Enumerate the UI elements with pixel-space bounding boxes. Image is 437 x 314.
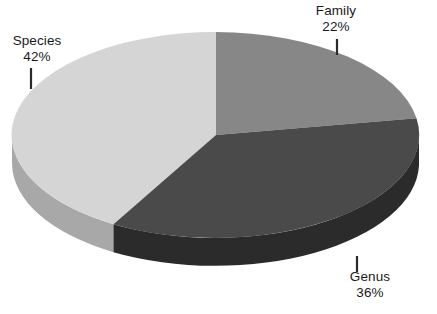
pie-chart-figure: Family 22% Species 42% Genus 36%	[0, 0, 437, 314]
pie-label-family-name: Family	[296, 3, 376, 19]
pie-label-species: Species 42%	[0, 33, 77, 65]
pie-label-family: Family 22%	[296, 3, 376, 35]
pie-slice-family	[216, 32, 417, 135]
pie-label-species-percent: 42%	[0, 49, 77, 65]
pie-label-genus-name: Genus	[330, 269, 410, 285]
pie-label-species-name: Species	[0, 33, 77, 49]
pie-label-genus: Genus 36%	[330, 269, 410, 301]
pie-label-family-percent: 22%	[296, 19, 376, 35]
pie-label-genus-percent: 36%	[330, 285, 410, 301]
